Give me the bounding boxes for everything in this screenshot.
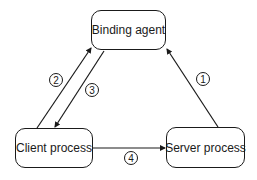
node-label: Binding agent [92,23,165,37]
node-binding-agent: Binding agent [91,10,166,50]
step-badge-1: 1 [196,72,210,86]
arrow-2 [37,48,91,128]
node-server-process: Server process [166,127,245,168]
step-badge-4: 4 [124,151,138,165]
node-label: Server process [165,141,246,155]
node-label: Client process [16,141,92,155]
node-client-process: Client process [15,128,93,168]
step-badge-2: 2 [49,73,63,87]
arrow-1 [167,49,218,127]
step-badge-3: 3 [85,83,99,97]
